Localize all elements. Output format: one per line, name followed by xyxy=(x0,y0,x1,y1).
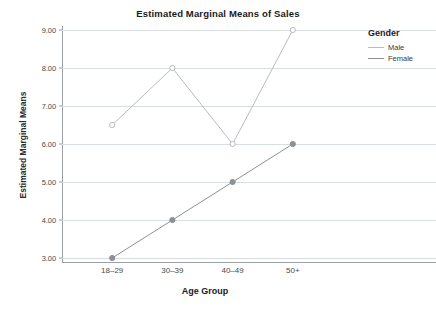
data-point xyxy=(110,255,115,260)
x-tick-label: 30–39 xyxy=(161,266,183,275)
y-tick-label: 6.00 xyxy=(42,140,56,149)
chart-container: Estimated Marginal Means of Sales Estima… xyxy=(0,0,436,313)
x-tick-label: 18–29 xyxy=(101,266,123,275)
legend-title: Gender xyxy=(368,28,436,38)
x-axis-title: Age Group xyxy=(55,286,355,296)
legend-item-female[interactable]: Female xyxy=(368,54,436,63)
x-tick-label: 50+ xyxy=(286,266,300,275)
y-tick-label: 8.00 xyxy=(42,64,56,73)
data-point xyxy=(290,141,295,146)
series-line xyxy=(112,30,293,144)
y-axis-title: Estimated Marginal Means xyxy=(18,60,28,230)
plot-area: 3.004.005.006.007.008.009.00 xyxy=(62,30,363,258)
series-layer xyxy=(62,30,363,258)
y-tick-label: 4.00 xyxy=(42,216,56,225)
chart-title: Estimated Marginal Means of Sales xyxy=(0,8,436,19)
y-tick-label: 5.00 xyxy=(42,178,56,187)
y-tick-label: 3.00 xyxy=(42,254,56,263)
y-tick-label: 7.00 xyxy=(42,102,56,111)
data-point xyxy=(170,217,175,222)
x-axis-spine xyxy=(62,262,436,263)
series-female xyxy=(110,141,296,260)
legend-item-male[interactable]: Male xyxy=(368,43,436,52)
data-point xyxy=(230,179,235,184)
legend: Gender MaleFemale xyxy=(368,28,436,65)
x-tick-label: 40–49 xyxy=(221,266,243,275)
legend-line-swatch xyxy=(368,47,384,49)
data-point xyxy=(230,141,235,146)
y-tick-label: 9.00 xyxy=(42,26,56,35)
series-line xyxy=(112,144,293,258)
data-point xyxy=(290,27,295,32)
data-point xyxy=(110,122,115,127)
legend-line-swatch xyxy=(368,58,384,60)
data-point xyxy=(170,65,175,70)
series-male xyxy=(110,27,296,146)
legend-item-label: Female xyxy=(388,54,413,63)
gridline xyxy=(62,258,436,259)
legend-entries: MaleFemale xyxy=(368,43,436,63)
legend-item-label: Male xyxy=(388,43,404,52)
